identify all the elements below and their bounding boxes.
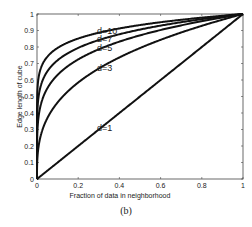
x-tick-label: 1 (241, 182, 245, 189)
y-tick-label: 0.9 (24, 27, 34, 34)
series-label-d=3: d=3 (97, 63, 112, 73)
y-tick-label: 0.1 (24, 159, 34, 166)
y-tick-label: 0.7 (24, 60, 34, 67)
y-tick-label: 0.6 (24, 77, 34, 84)
x-axis-label: Fraction of data in neighborhood (70, 192, 171, 200)
y-tick-label: 0.4 (24, 110, 34, 117)
series-line-d=1 (37, 14, 243, 179)
x-tick-label: 0.8 (197, 182, 207, 189)
series-label-d=5: d=5 (97, 43, 112, 53)
y-tick-label: 0.8 (24, 44, 34, 51)
x-tick-label: 0.4 (115, 182, 125, 189)
y-tick-label: 1 (30, 11, 34, 18)
y-tick-label: 0.5 (24, 93, 34, 100)
x-tick-label: 0.2 (73, 182, 83, 189)
y-tick-label: 0.2 (24, 143, 34, 150)
series-label-d=1: d=1 (97, 123, 112, 133)
figure-caption: (b) (0, 205, 252, 216)
y-axis-label: Edge length of cube (16, 65, 24, 127)
x-tick-label: 0 (35, 182, 39, 189)
y-tick-label: 0.3 (24, 126, 34, 133)
y-tick-label: 0 (30, 176, 34, 183)
x-tick-label: 0.6 (156, 182, 166, 189)
chart-plot: 00.20.40.60.8100.10.20.30.40.50.60.70.80… (0, 0, 252, 227)
